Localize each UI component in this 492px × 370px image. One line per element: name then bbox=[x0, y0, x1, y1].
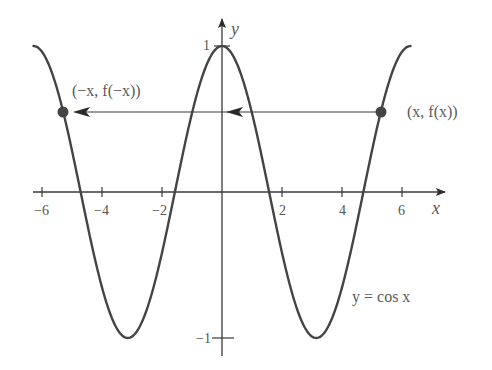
point-label-neg-x: (−x, f(−x)) bbox=[72, 82, 141, 100]
y-tick-label: 1 bbox=[203, 38, 210, 53]
x-tick-label: −6 bbox=[34, 203, 49, 218]
x-tick-label: 4 bbox=[339, 203, 346, 218]
cosine-even-function-diagram: −6 −4 −2 2 4 6 1 −1 x y (−x, f(−x)) (x, … bbox=[0, 0, 492, 370]
x-axis-label: x bbox=[431, 198, 440, 218]
point-label-neg-x-text: (−x, f(−x)) bbox=[72, 82, 141, 100]
y-tick-label: −1 bbox=[196, 331, 211, 346]
point-neg-x bbox=[58, 107, 69, 118]
x-tick-label: −4 bbox=[94, 203, 109, 218]
point-x bbox=[376, 107, 387, 118]
point-label-x-text: (x, f(x)) bbox=[407, 103, 458, 121]
y-axis-label: y bbox=[229, 19, 239, 39]
x-tick-label: −2 bbox=[152, 203, 167, 218]
point-label-x: (x, f(x)) bbox=[407, 103, 458, 121]
function-label: y = cos x bbox=[352, 288, 410, 306]
x-tick-label: 6 bbox=[398, 203, 405, 218]
x-tick-label: 2 bbox=[279, 203, 286, 218]
